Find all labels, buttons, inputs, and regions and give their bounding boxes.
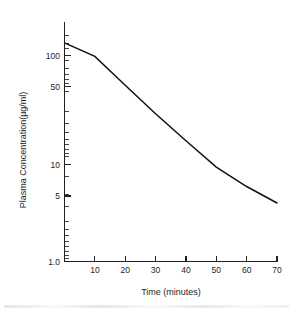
x-tick-label-20: 20: [120, 265, 130, 275]
data-series-group: [65, 43, 278, 203]
scan-artifact-strip: [4, 305, 289, 308]
y-axis-title: Plasma Concentration(µg/ml): [18, 92, 28, 209]
y-axis-major-ticks: [65, 56, 71, 262]
x-tick-label-60: 60: [242, 265, 252, 275]
semilog-plasma-concentration-chart: 100 50 10 5 1.0 10 20 30 40 50 60 70: [0, 0, 293, 314]
x-axis-tick-labels: 10 20 30 40 50 60 70: [90, 265, 282, 275]
x-tick-label-30: 30: [151, 265, 161, 275]
x-tick-label-50: 50: [212, 265, 222, 275]
figure-canvas: 100 50 10 5 1.0 10 20 30 40 50 60 70: [0, 0, 293, 314]
y-axis-tick-labels: 100 50 10 5 1.0: [46, 51, 60, 267]
y-tick-label-10: 10: [51, 160, 61, 170]
x-tick-label-40: 40: [181, 265, 191, 275]
y-tick-label-100: 100: [46, 51, 60, 61]
plasma-concentration-line: [65, 43, 278, 203]
x-axis-title: Time (minutes): [141, 287, 201, 297]
y-axis-minor-ticks: [65, 35, 69, 259]
y-tick-label-5: 5: [55, 191, 60, 201]
x-tick-label-10: 10: [90, 265, 100, 275]
y-tick-label-1: 1.0: [48, 257, 60, 267]
x-axis-major-ticks: [95, 256, 277, 262]
y-tick-label-50: 50: [51, 82, 61, 92]
x-tick-label-70: 70: [272, 265, 282, 275]
